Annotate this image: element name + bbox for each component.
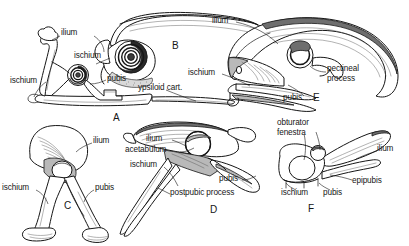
panel-id-d: D — [210, 204, 217, 215]
panel-a-label-ilium: ilium — [61, 28, 77, 38]
panel-id-e: E — [313, 92, 320, 103]
panel-d-label-acetabulum: acetabulum — [125, 145, 166, 155]
acetabulum-d — [186, 132, 212, 157]
panel-d-label-postpubic-process: postpubic process — [170, 188, 234, 198]
panel-e-label-pectineal-process: pectineal process — [327, 64, 387, 83]
acetabulum-e — [287, 41, 313, 68]
panel-id-f: F — [308, 203, 314, 214]
panel-id-c: C — [64, 200, 71, 211]
panel-e-label-pubis: pubis — [283, 93, 302, 103]
panel-d-label-ilium: ilium — [146, 134, 162, 144]
panel-e-label-ischium: ischium — [188, 68, 215, 78]
panel-f-label-obturator-fenestra: obturator fenestra — [277, 118, 335, 137]
panel-d-label-pubis: pubis — [219, 174, 238, 184]
panel-a-label-ischium-left: ischium — [10, 76, 37, 86]
panel-d-label-ischium: ischium — [130, 160, 157, 170]
panel-a-label-ischium-upper: ischium — [74, 51, 101, 61]
comparative-pelvis-figure: .o { fill:none; stroke:#161616; stroke-w… — [0, 0, 409, 246]
acetabulum-f — [311, 146, 326, 161]
panel-e-label-ilium: ilium — [212, 16, 228, 26]
panel-c-label-ischium: ischium — [2, 183, 29, 193]
panel-id-a: A — [113, 112, 120, 123]
panel-c-label-ilium: ilium — [93, 136, 109, 146]
panel-a-label-pubis: pubis — [107, 74, 126, 84]
panel-f-label-ischium: ischium — [281, 188, 308, 198]
acetabulum-b — [115, 41, 147, 73]
panel-f-label-pubis: pubis — [323, 188, 342, 198]
panel-f-label-epipubis: epipubis — [352, 176, 382, 186]
panel-id-b: B — [172, 40, 179, 51]
panel-c-label-pubis: pubis — [95, 183, 114, 193]
panel-d-drawing — [120, 122, 259, 236]
panel-a-label-ypsiloid-cart: ypsiloid cart. — [138, 83, 182, 93]
panel-f-label-ilium: ilium — [377, 144, 393, 154]
